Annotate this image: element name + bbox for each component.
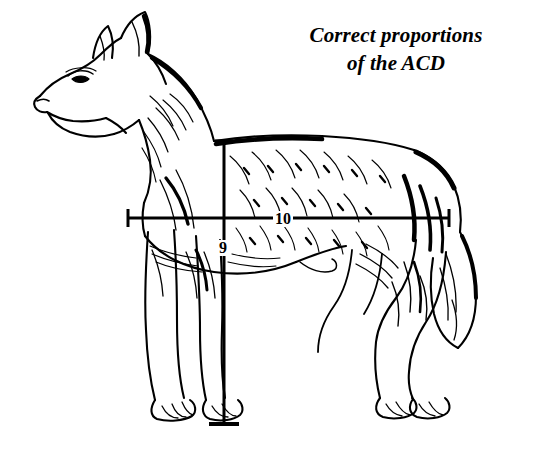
proportions-figure: Correct proportions of the ACD xyxy=(0,0,541,451)
length-measure-label: 10 xyxy=(273,211,293,227)
height-measure-label: 9 xyxy=(217,240,229,256)
measurement-overlay xyxy=(0,0,541,451)
